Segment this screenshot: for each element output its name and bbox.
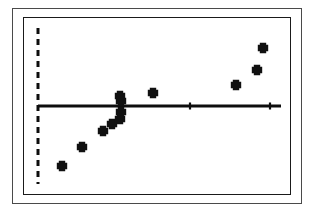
figure-root <box>0 0 314 213</box>
chart-xlabel <box>0 0 1 1</box>
figure-caption <box>0 0 1 1</box>
chart-ylabel <box>0 0 1 1</box>
chart-title <box>0 0 1 1</box>
plot-border <box>23 17 291 195</box>
